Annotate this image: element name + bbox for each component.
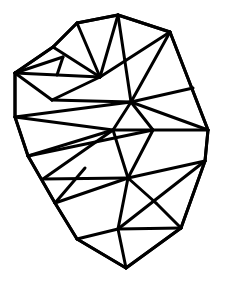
mesh-edge — [52, 100, 131, 102]
mesh-edge — [118, 228, 181, 229]
background — [0, 0, 226, 283]
mesh-svg — [0, 0, 226, 283]
mesh-edge — [43, 178, 128, 179]
triangulation-diagram — [0, 0, 226, 283]
